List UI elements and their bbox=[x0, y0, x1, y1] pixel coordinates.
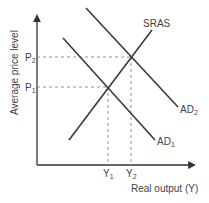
ad1-label: AD1 bbox=[157, 136, 175, 148]
ad-sras-chart: SRAS AD2 AD1 P2 P1 Y1 Y2 Real output (Y)… bbox=[0, 0, 209, 203]
y2-label: Y2 bbox=[126, 168, 137, 180]
x-axis-title: Real output (Y) bbox=[131, 183, 198, 194]
y-axis-title: Average price level bbox=[9, 30, 20, 115]
y1-label: Y1 bbox=[103, 168, 114, 180]
ad1-curve bbox=[63, 38, 155, 140]
p1-label: P1 bbox=[25, 82, 36, 94]
p2-label: P2 bbox=[25, 52, 36, 64]
ad2-label: AD2 bbox=[180, 104, 198, 116]
sras-label: SRAS bbox=[143, 18, 171, 29]
